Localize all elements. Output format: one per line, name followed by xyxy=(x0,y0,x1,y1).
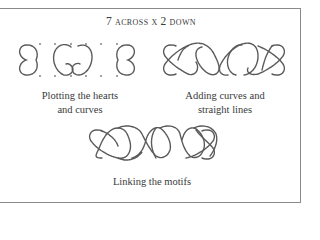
caption-linking-line1: Linking the motifs xyxy=(92,175,212,189)
curve-2-icon xyxy=(72,45,92,75)
left-heart-icon xyxy=(20,45,38,75)
caption-adding: Adding curves and straight lines xyxy=(165,89,285,117)
caption-adding-line2: straight lines xyxy=(165,103,285,117)
caption-plotting-line2: and curves xyxy=(20,103,140,117)
caption-linking: Linking the motifs xyxy=(92,175,212,189)
caption-adding-line1: Adding curves and xyxy=(165,89,285,103)
linked-motifs-diagram xyxy=(90,126,217,160)
caption-plotting: Plotting the hearts and curves xyxy=(20,89,140,117)
curve-1-icon xyxy=(54,45,73,76)
right-heart-icon xyxy=(117,45,135,75)
grid-dots xyxy=(39,43,118,77)
plotting-hearts-diagram xyxy=(20,43,135,77)
adding-curves-diagram xyxy=(164,43,285,75)
caption-plotting-line1: Plotting the hearts xyxy=(20,89,140,103)
